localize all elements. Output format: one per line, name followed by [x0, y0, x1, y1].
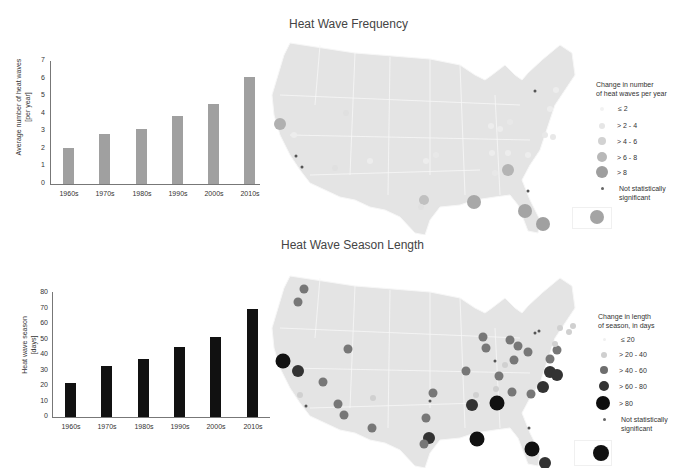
bar-1960s — [65, 383, 76, 417]
legend-item: > 6 - 8 — [596, 152, 637, 162]
season-length-map — [260, 268, 580, 468]
y-tick: 50 — [34, 335, 48, 342]
legend-label: > 20 - 40 — [619, 351, 647, 358]
y-tick: 80 — [34, 288, 48, 295]
legend-item: > 60 - 80 — [598, 381, 647, 391]
season-bar-chart: Heat wave season [days] 0 10 20 30 40 50… — [0, 0, 270, 475]
legend-swatch — [599, 381, 609, 391]
legend-title: Change in length of season, in days — [598, 312, 681, 330]
legend-swatch — [598, 137, 606, 145]
inset-circle — [593, 445, 609, 461]
legend-item-not-significant: Not statistically significant — [596, 184, 666, 202]
legend-label-line: significant — [619, 194, 650, 201]
legend-label: Not statistically significant — [621, 415, 668, 433]
legend-item: ≤ 2 — [596, 105, 628, 112]
x-label: 1980s — [129, 423, 159, 430]
legend-swatch — [601, 352, 607, 358]
ylabel-line: [days] — [29, 305, 38, 385]
legend-swatch — [597, 152, 607, 162]
y-tick: 30 — [34, 366, 48, 373]
legend-swatch — [599, 123, 605, 129]
bar-1980s — [138, 359, 149, 417]
not-significant-marker-icon — [603, 418, 606, 421]
legend-label: > 2 - 4 — [617, 122, 637, 129]
inset-box — [574, 440, 612, 466]
legend-item: > 4 - 6 — [596, 137, 637, 145]
legend-swatch — [596, 166, 608, 178]
legend-label: ≤ 20 — [621, 336, 635, 343]
bar-2000s — [210, 337, 221, 417]
legend-swatch — [596, 396, 610, 410]
legend-swatch — [600, 366, 608, 374]
season-length-title: Heat Wave Season Length — [281, 238, 424, 252]
legend-item-not-significant: Not statistically significant — [598, 415, 668, 433]
bar-1990s — [174, 347, 185, 417]
inset-circle — [590, 210, 604, 224]
legend-label-line: Not statistically — [621, 416, 668, 423]
legend-swatch — [600, 107, 604, 111]
legend-title-line: of season, in days — [598, 321, 681, 330]
legend-label-line: significant — [621, 425, 652, 432]
legend-label: > 80 — [619, 400, 633, 407]
legend-item: > 40 - 60 — [598, 366, 647, 374]
legend-label: ≤ 2 — [618, 105, 628, 112]
legend-label: > 6 - 8 — [617, 154, 637, 161]
legend-title: Change in number of heat waves per year — [596, 80, 681, 98]
legend-label: > 60 - 80 — [619, 383, 647, 390]
season-y-axis-label: Heat wave season [days] — [20, 305, 38, 385]
legend-item: > 20 - 40 — [598, 351, 647, 358]
x-label: 1960s — [56, 423, 86, 430]
season-y-axis — [52, 292, 53, 417]
y-tick: 10 — [34, 397, 48, 404]
legend-item: > 80 — [596, 396, 633, 410]
legend-label: Not statistically significant — [619, 184, 666, 202]
inset-box — [572, 207, 612, 229]
ylabel-line: Heat wave season — [20, 305, 29, 385]
not-significant-marker-icon — [601, 187, 604, 190]
y-tick: 0 — [34, 412, 48, 419]
legend-title-line: Change in number — [596, 80, 681, 89]
season-x-axis — [52, 417, 270, 418]
y-tick: 40 — [34, 350, 48, 357]
legend-item: > 2 - 4 — [596, 122, 637, 129]
legend-title-line: of heat waves per year — [596, 89, 681, 98]
x-label: 1970s — [92, 423, 122, 430]
legend-label: > 8 — [617, 169, 627, 176]
season-legend: Change in length of season, in days ≤ 20… — [570, 310, 681, 475]
bar-2010s — [247, 309, 258, 417]
y-tick: 20 — [34, 381, 48, 388]
y-tick: 60 — [34, 319, 48, 326]
legend-label: > 4 - 6 — [617, 138, 637, 145]
legend-title-line: Change in length — [598, 312, 681, 321]
frequency-map — [260, 35, 580, 235]
x-label: 2000s — [201, 423, 231, 430]
frequency-legend: Change in number of heat waves per year … — [570, 80, 681, 240]
legend-item: > 8 — [596, 166, 627, 178]
legend-item: ≤ 20 — [598, 336, 635, 343]
legend-swatch — [603, 338, 606, 341]
x-label: 1990s — [165, 423, 195, 430]
legend-label-line: Not statistically — [619, 185, 666, 192]
y-tick: 70 — [34, 304, 48, 311]
legend-label: > 40 - 60 — [619, 367, 647, 374]
bar-1970s — [101, 366, 112, 417]
frequency-title: Heat Wave Frequency — [289, 17, 408, 31]
